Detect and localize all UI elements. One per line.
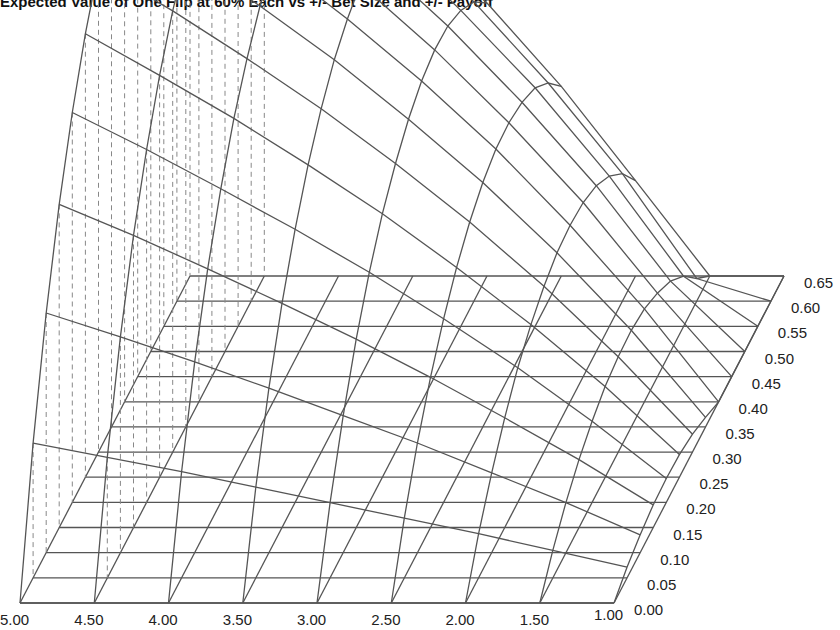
x-tick-label: 1.50 [520,611,549,628]
y-tick-label: 0.05 [647,576,676,593]
y-axis-tick-labels: 0.000.050.100.150.200.250.300.350.400.45… [634,274,833,618]
surface-betsize-curve [59,204,653,505]
floor-payoff-line [391,276,561,603]
y-tick-label: 0.50 [765,350,794,367]
surface-betsize-curve [99,0,693,434]
floor-payoff-line [94,276,264,603]
x-tick-label: 4.00 [149,611,178,628]
surface-payoff-curve [317,2,487,603]
y-tick-label: 0.55 [778,324,807,341]
y-tick-label: 0.40 [739,400,768,417]
x-tick-label: 5.00 [0,611,29,628]
floor-payoff-line [169,276,339,603]
y-tick-label: 0.20 [686,500,715,517]
y-tick-label: 0.10 [660,551,689,568]
drop-lines [33,0,264,578]
surface-betsize-curve [72,113,666,479]
y-tick-label: 0.25 [699,475,728,492]
surface-payoff-curve [20,0,190,603]
surface-plot: 5.004.504.003.503.002.502.001.501.00 0.0… [0,0,840,630]
surface-betsize-curve [190,0,784,276]
x-tick-label: 4.50 [74,611,103,628]
x-tick-label: 3.00 [297,611,326,628]
x-tick-label: 1.00 [594,606,623,623]
surface-betsize-curve [125,0,719,402]
surface-payoff-curve [391,83,561,603]
surface-betsize-curve [85,34,679,455]
x-axis-tick-labels: 5.004.504.003.503.002.502.001.501.00 [0,606,623,628]
floor-payoff-line [466,276,636,603]
surface-betsize-curve [46,313,640,535]
surface-betsize-curve [138,0,732,377]
surface-betsize-curve [177,0,771,301]
surface-payoff-curve [466,174,636,603]
y-tick-label: 0.65 [804,274,833,291]
y-tick-label: 0.30 [713,450,742,467]
floor-payoff-line [317,276,487,603]
x-tick-label: 2.00 [446,611,475,628]
x-tick-label: 2.50 [371,611,400,628]
surface-betsize-curve [151,0,745,352]
y-tick-label: 0.15 [673,526,702,543]
x-tick-label: 3.50 [223,611,252,628]
y-tick-label: 0.45 [752,375,781,392]
y-tick-label: 0.00 [634,601,663,618]
y-tick-label: 0.60 [791,299,820,316]
y-tick-label: 0.35 [726,425,755,442]
